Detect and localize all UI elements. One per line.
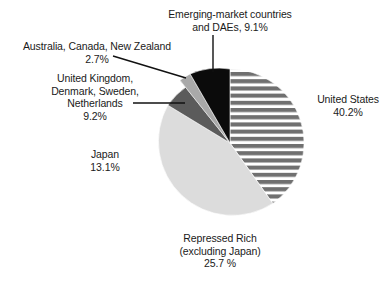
pie-chart-figure: Emerging-market countries and DAEs, 9.1%…	[0, 0, 391, 289]
pie-label-emerging-markets: Emerging-market countries and DAEs, 9.1%	[140, 8, 320, 33]
pie-label-uk-group: United Kingdom, Denmark, Sweden, Netherl…	[22, 72, 168, 122]
pie-label-united-states: United States 40.2%	[306, 93, 390, 118]
pie-label-japan: Japan 13.1%	[60, 148, 150, 173]
pie-label-repressed-rich: Repressed Rich (excluding Japan) 25.7 %	[152, 232, 288, 270]
pie-label-australia-group: Australia, Canada, New Zealand 2.7%	[4, 40, 190, 65]
pie-slices	[158, 68, 304, 215]
